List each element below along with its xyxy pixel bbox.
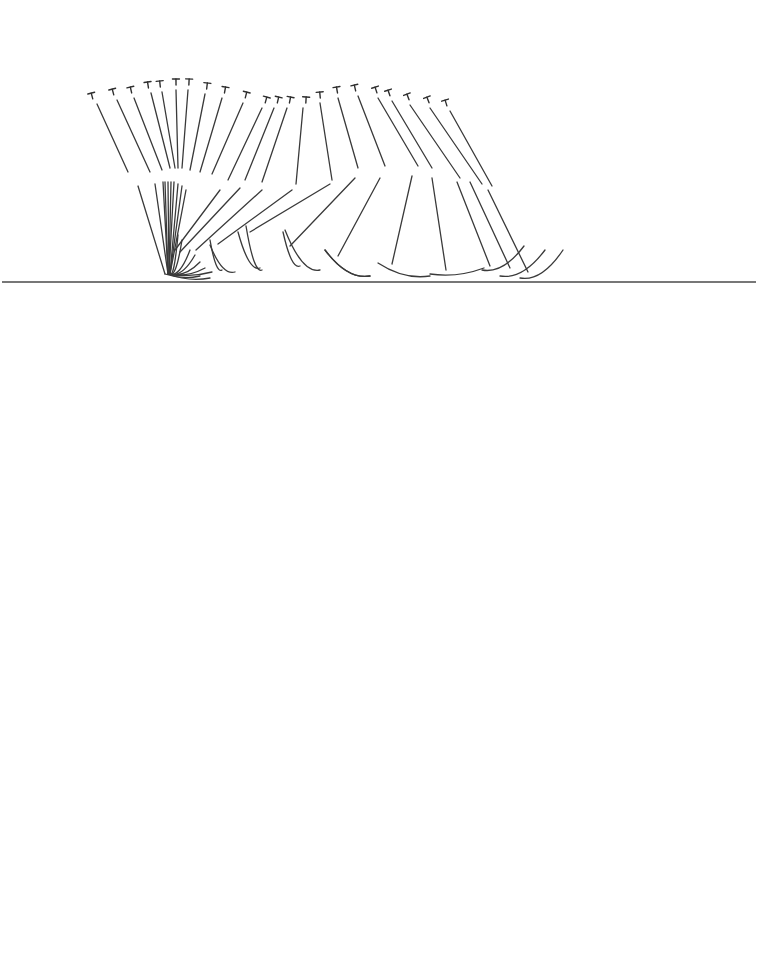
figure-frame (325, 84, 385, 276)
trunk-segment (320, 103, 332, 180)
trunk-segment (338, 98, 358, 168)
head-marker-icon (316, 92, 324, 99)
head-marker-icon (424, 96, 433, 104)
shank-segment (430, 268, 484, 275)
figure-frame (404, 93, 524, 271)
head-marker-icon (242, 91, 250, 99)
trunk-segment (212, 103, 243, 174)
shank-segment (285, 230, 320, 270)
trunk-segment (176, 90, 178, 168)
head-marker-icon (144, 82, 152, 89)
head-marker-icon (185, 79, 192, 85)
trunk-segment (134, 98, 162, 170)
head-marker-icon (404, 93, 413, 101)
head-marker-icon (442, 99, 450, 107)
thigh-segment (175, 190, 220, 250)
figure-frame (424, 96, 545, 277)
shank-segment (325, 250, 370, 276)
thigh-segment (218, 190, 292, 244)
trunk-segment (245, 108, 274, 180)
trunk-segment (450, 111, 492, 186)
head-marker-icon (221, 86, 229, 93)
motion-figure (0, 0, 758, 957)
thigh-segment (488, 190, 528, 272)
shank-segment (210, 240, 222, 270)
frame-sequence (88, 79, 563, 279)
figure-frame (144, 82, 205, 276)
shank-segment (283, 232, 300, 266)
head-marker-icon (88, 92, 96, 100)
shank-segment (238, 232, 260, 268)
head-marker-icon (156, 81, 164, 88)
figure-frame (175, 96, 270, 272)
thigh-segment (138, 186, 165, 274)
thigh-segment (457, 182, 490, 266)
stick-figure-diagram (0, 0, 758, 957)
trunk-segment (190, 94, 205, 170)
head-marker-icon (127, 86, 135, 93)
thigh-segment (392, 176, 412, 264)
head-marker-icon (274, 96, 282, 103)
trunk-segment (228, 108, 262, 180)
shank-segment (378, 263, 430, 277)
figure-frame (88, 92, 200, 277)
trunk-segment (151, 93, 170, 168)
head-marker-icon (302, 97, 309, 103)
head-marker-icon (286, 96, 294, 103)
head-marker-icon (385, 89, 394, 97)
trunk-segment (117, 100, 150, 172)
figure-frame (109, 88, 210, 279)
thigh-segment (432, 178, 446, 270)
head-marker-icon (172, 79, 179, 85)
figure-frame (385, 89, 484, 275)
shank-segment (246, 226, 262, 270)
trunk-segment (262, 108, 287, 182)
trunk-segment (162, 92, 175, 168)
head-marker-icon (262, 96, 270, 104)
figure-frame (180, 96, 282, 268)
figure-frame (218, 97, 310, 267)
head-marker-icon (203, 83, 211, 90)
trunk-segment (358, 96, 385, 166)
trunk-segment (392, 101, 432, 168)
trunk-segment (296, 108, 303, 184)
head-marker-icon (333, 86, 341, 93)
trunk-segment (182, 90, 188, 168)
head-marker-icon (351, 84, 359, 91)
head-marker-icon (372, 86, 381, 94)
shank-segment (325, 250, 370, 276)
head-marker-icon (109, 88, 117, 96)
trunk-segment (200, 98, 222, 172)
